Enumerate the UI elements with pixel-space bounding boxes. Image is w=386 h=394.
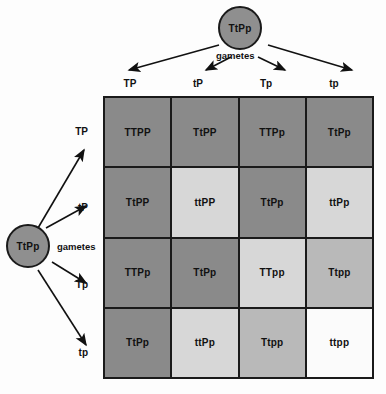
punnett-cell-genotype: Ttpp <box>261 337 283 348</box>
arrow-top-to-Tp <box>258 57 285 70</box>
parent-genotype-left: TtPp <box>16 241 39 252</box>
column-gamete-label-3: Tp <box>246 78 286 89</box>
punnett-cell-genotype: TTPP <box>124 127 150 138</box>
parent-circle-top: TtPp <box>218 6 262 50</box>
punnett-cell: ttPp <box>172 309 237 377</box>
punnett-cell: TtPP <box>105 168 170 236</box>
punnett-cell: TtPp <box>172 239 237 307</box>
parent-genotype-top: TtPp <box>228 23 251 34</box>
punnett-cell-genotype: TtPp <box>261 197 284 208</box>
arrow-top-to-tp <box>268 45 352 70</box>
punnett-cell: TtPp <box>105 309 170 377</box>
punnett-square-diagram: TtPp gametes TtPp gametes TP tP Tp tp TP… <box>0 0 386 394</box>
row-gamete-label-3: Tp <box>62 279 88 290</box>
column-gamete-label-2: tP <box>178 78 218 89</box>
punnett-cell-genotype: TTpp <box>260 267 285 278</box>
punnett-cell: TtPp <box>240 168 305 236</box>
punnett-cell-genotype: ttpp <box>330 337 350 348</box>
punnett-cell: TTPp <box>240 98 305 166</box>
punnett-cell: Ttpp <box>307 239 372 307</box>
punnett-cell-genotype: ttPP <box>194 197 215 208</box>
punnett-cell: Ttpp <box>240 309 305 377</box>
punnett-cell: TTpp <box>240 239 305 307</box>
row-gamete-label-2: tP <box>62 202 88 213</box>
parent-circle-left: TtPp <box>6 224 50 268</box>
arrow-top-to-TP <box>129 45 219 70</box>
punnett-grid: TTPP TtPP TTPp TtPp TtPP ttPP TtPp ttPp … <box>103 96 374 379</box>
punnett-cell-genotype: ttPp <box>329 197 349 208</box>
punnett-cell: TTPp <box>105 239 170 307</box>
punnett-cell-genotype: TTPp <box>259 127 285 138</box>
punnett-cell: ttPp <box>307 168 372 236</box>
punnett-cell-genotype: TtPP <box>193 127 217 138</box>
arrow-left-to-TP <box>38 150 84 228</box>
punnett-cell-genotype: Ttpp <box>328 267 350 278</box>
punnett-cell: TTPP <box>105 98 170 166</box>
punnett-cell-genotype: TTPp <box>125 267 151 278</box>
column-gamete-label-4: tp <box>314 78 354 89</box>
gametes-label-left: gametes <box>57 241 96 252</box>
punnett-cell: ttPP <box>172 168 237 236</box>
punnett-cell-genotype: TtPp <box>126 337 149 348</box>
punnett-cell-genotype: TtPp <box>328 127 351 138</box>
punnett-cell: TtPP <box>172 98 237 166</box>
punnett-cell-genotype: TtPp <box>193 267 216 278</box>
gametes-label-top: gametes <box>216 50 255 61</box>
punnett-cell-genotype: ttPp <box>195 337 215 348</box>
punnett-cell: ttpp <box>307 309 372 377</box>
punnett-cell-genotype: TtPP <box>126 197 150 208</box>
column-gamete-label-1: TP <box>110 78 150 89</box>
punnett-cell: TtPp <box>307 98 372 166</box>
row-gamete-label-1: TP <box>62 126 88 137</box>
row-gamete-label-4: tp <box>62 347 88 358</box>
